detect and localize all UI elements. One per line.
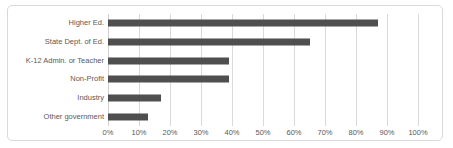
x-tick-label: 10% [131, 129, 146, 137]
bar [108, 20, 378, 27]
x-tick-label: 0% [103, 129, 114, 137]
x-tick-label: 90% [379, 129, 394, 137]
x-tick-label: 70% [317, 129, 332, 137]
value-axis-labels: 0%10%20%30%40%50%60%70%80%90%100% [108, 129, 418, 141]
bar-chart-canvas: Higher Ed.State Dept. of Ed.K-12 Admin. … [0, 0, 453, 148]
category-axis-labels: Higher Ed.State Dept. of Ed.K-12 Admin. … [8, 14, 104, 126]
category-label: Industry [8, 94, 104, 102]
bar-row [108, 89, 418, 108]
category-label: Higher Ed. [8, 19, 104, 27]
category-label: Non-Profit [8, 75, 104, 83]
bar-row [108, 33, 418, 52]
x-tick-label: 100% [408, 129, 427, 137]
x-tick-label: 30% [193, 129, 208, 137]
category-label: Other government [8, 113, 104, 121]
bar-row [108, 51, 418, 70]
x-tick-label: 40% [224, 129, 239, 137]
bar [108, 94, 161, 101]
bar-row [108, 14, 418, 33]
chart-frame: Higher Ed.State Dept. of Ed.K-12 Admin. … [7, 5, 443, 141]
bar [108, 113, 148, 120]
bar [108, 38, 310, 45]
x-tick-label: 80% [348, 129, 363, 137]
bar [108, 57, 229, 64]
category-label: K-12 Admin. or Teacher [8, 57, 104, 65]
plot-area [108, 14, 418, 126]
x-tick-label: 50% [255, 129, 270, 137]
x-tick-label: 20% [162, 129, 177, 137]
bar [108, 76, 229, 83]
bar-row [108, 107, 418, 126]
category-label: State Dept. of Ed. [8, 38, 104, 46]
bar-row [108, 70, 418, 89]
x-tick-label: 60% [286, 129, 301, 137]
